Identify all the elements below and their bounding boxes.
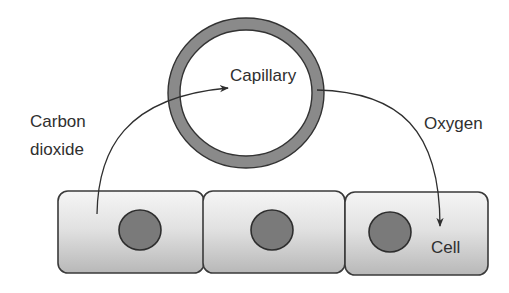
capillary-inner-edge xyxy=(180,30,312,156)
gas-exchange-diagram: Capillary Carbon dioxide Oxygen Cell xyxy=(0,0,509,293)
carbon-dioxide-label-line2: dioxide xyxy=(30,140,84,159)
cell-3 xyxy=(345,192,488,275)
carbon-dioxide-label-line1: Carbon xyxy=(30,112,86,131)
cell-row xyxy=(58,191,488,275)
nucleus-2 xyxy=(251,210,293,250)
nucleus-3 xyxy=(369,212,411,252)
capillary xyxy=(168,18,324,168)
oxygen-label: Oxygen xyxy=(424,114,483,133)
nucleus-1 xyxy=(119,210,161,250)
capillary-label: Capillary xyxy=(230,66,297,85)
cell-label: Cell xyxy=(431,238,460,257)
